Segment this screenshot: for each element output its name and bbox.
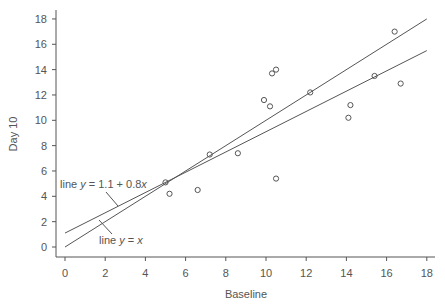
data-point (392, 29, 397, 34)
reference-lines (65, 19, 427, 247)
data-point (273, 176, 278, 181)
x-tick-label: 12 (300, 267, 312, 279)
data-point (195, 187, 200, 192)
y-tick-label: 12 (35, 89, 47, 101)
data-point (167, 191, 172, 196)
x-tick-label: 4 (142, 267, 148, 279)
x-tick-label: 14 (340, 267, 352, 279)
data-point (346, 115, 351, 120)
x-tick-label: 6 (183, 267, 189, 279)
x-tick-label: 16 (380, 267, 392, 279)
x-axis-label: Baseline (225, 288, 267, 300)
data-point (398, 81, 403, 86)
x-tick-label: 18 (421, 267, 433, 279)
data-point (235, 151, 240, 156)
leader-line (106, 192, 118, 206)
y-tick-label: 0 (41, 241, 47, 253)
scatter-chart: 024681012141618 024681012141618 line y =… (0, 0, 445, 306)
x-tick-label: 2 (102, 267, 108, 279)
data-point (348, 102, 353, 107)
y-tick-label: 10 (35, 114, 47, 126)
data-point (267, 104, 272, 109)
y-tick-label: 16 (35, 38, 47, 50)
y-axis-label: Day 10 (7, 117, 19, 152)
y-axis: 024681012141618 (35, 10, 56, 257)
y-tick-label: 6 (41, 165, 47, 177)
x-tick-label: 0 (62, 267, 68, 279)
x-axis: 024681012141618 (56, 257, 435, 279)
x-tick-label: 8 (223, 267, 229, 279)
x-tick-label: 10 (260, 267, 272, 279)
data-point (261, 97, 266, 102)
line-label: line y = 1.1 + 0.8x (60, 178, 147, 190)
y-tick-label: 8 (41, 140, 47, 152)
y-tick-label: 14 (35, 64, 47, 76)
y-tick-label: 4 (41, 190, 47, 202)
line-label: line y = x (99, 234, 143, 246)
line-annotations: line y = 1.1 + 0.8xline y = x (60, 178, 147, 246)
reference-line (65, 19, 427, 247)
y-tick-label: 2 (41, 216, 47, 228)
data-points (163, 29, 403, 196)
leader-line (99, 220, 112, 234)
y-tick-label: 18 (35, 13, 47, 25)
data-point (273, 67, 278, 72)
